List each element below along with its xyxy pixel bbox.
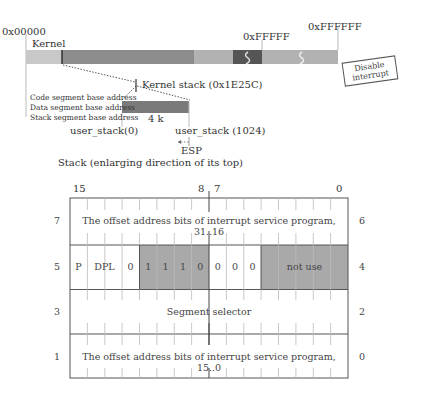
code-segment-label: Code segment base address <box>30 93 136 103</box>
bit-0-label: 0 <box>336 183 342 194</box>
kernel-main-segment <box>62 50 194 64</box>
reserved-bit-5: 0 <box>244 261 261 272</box>
user-stack-start-label: user_stack(0) <box>70 125 138 136</box>
zero-bit-field: 0 <box>122 261 139 272</box>
address-start-label: 0x00000 <box>2 26 46 37</box>
stack-segment-label: Stack segment base address <box>30 113 138 123</box>
type-bit-0: 0 <box>192 261 209 272</box>
kernel-stack-label: Kernel stack (0x1E25C) <box>142 79 262 90</box>
reserved-bit-6: 0 <box>226 261 243 272</box>
stack-size-label: 4 k <box>148 113 164 124</box>
row-offset-7: 7 <box>54 215 60 226</box>
row-offset-6: 6 <box>359 215 365 226</box>
user-stack-end-label: user_stack (1024) <box>175 125 265 136</box>
not-use-field: not use <box>261 261 348 272</box>
stack-caption: Stack (enlarging direction of its top) <box>58 157 243 168</box>
type-bit-1: 1 <box>174 261 191 272</box>
p-field: P <box>70 261 87 272</box>
row-offset-5: 5 <box>54 261 60 272</box>
bit-8-label: 8 <box>198 183 204 194</box>
bit-7-label: 7 <box>214 183 220 194</box>
address-1mb-label: 0xFFFFF <box>243 31 290 42</box>
row-offset-3: 3 <box>54 306 60 317</box>
reserved-bit-7: 0 <box>209 261 226 272</box>
kernel-light-segment <box>26 50 62 64</box>
row-offset-4: 4 <box>359 261 365 272</box>
row-offset-0: 0 <box>359 351 365 362</box>
data-segment-label: Data segment base address <box>30 103 135 113</box>
bit-15-label: 15 <box>73 183 86 194</box>
type-bit-2: 1 <box>157 261 174 272</box>
row-offset-1: 1 <box>54 351 60 362</box>
esp-label: ESP <box>181 145 202 156</box>
dpl-field: DPL <box>87 261 122 272</box>
segment-selector-field: Segment selector <box>70 306 348 317</box>
type-bit-3: 1 <box>140 261 157 272</box>
offset-high-field: The offset address bits of interrupt ser… <box>70 215 348 237</box>
address-16mb-label: 0xFFFFFF <box>308 21 362 32</box>
offset-low-field: The offset address bits of interrupt ser… <box>70 351 348 373</box>
row-offset-2: 2 <box>359 306 365 317</box>
kernel-label: Kernel <box>32 38 65 49</box>
